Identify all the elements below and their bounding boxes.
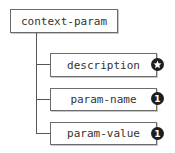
tree-trunk-line xyxy=(36,33,37,134)
root-node: context-param xyxy=(10,9,118,33)
child-node-label: param-value xyxy=(67,127,140,140)
one-icon: 1 xyxy=(151,92,164,105)
branch-line-param-value xyxy=(36,133,50,134)
one-icon: 1 xyxy=(151,127,164,140)
child-node-param-value: param-value xyxy=(50,122,157,145)
child-node-label: description xyxy=(67,59,140,72)
branch-line-description xyxy=(36,64,50,65)
branch-line-param-name xyxy=(36,99,50,100)
star-glyph xyxy=(153,60,162,69)
cardinality-label: 1 xyxy=(154,129,160,139)
star-icon xyxy=(151,58,164,71)
child-node-param-name: param-name xyxy=(50,88,157,111)
root-node-label: context-param xyxy=(21,15,107,28)
child-node-description: description xyxy=(50,53,157,77)
child-node-label: param-name xyxy=(70,93,136,106)
cardinality-label: 1 xyxy=(154,94,160,104)
